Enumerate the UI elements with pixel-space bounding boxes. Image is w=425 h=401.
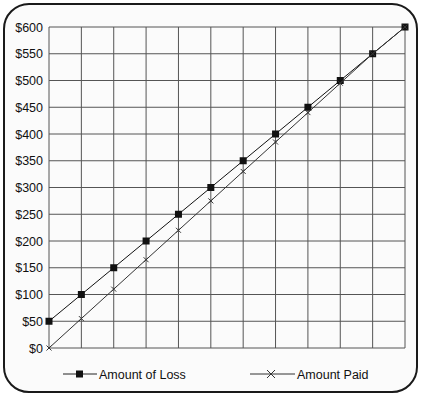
legend-label-amount-of-loss: Amount of Loss [99,368,186,382]
line-chart: $0$50$100$150$200$250$300$350$400$450$50… [0,0,425,401]
series-amount-of-loss [46,24,409,325]
data-point-square [272,131,279,138]
legend-item-amount-paid: Amount Paid [250,368,369,382]
legend-marker-square [76,371,83,378]
y-tick-label: $150 [15,261,43,275]
y-axis-ticks: $0$50$100$150$200$250$300$350$400$450$50… [15,21,43,356]
data-point-square [46,318,53,325]
data-point-square [207,184,214,191]
y-tick-label: $250 [15,208,43,222]
data-point-square [175,211,182,218]
y-tick-label: $400 [15,128,43,142]
y-tick-label: $500 [15,74,43,88]
y-tick-label: $450 [15,101,43,115]
legend-item-amount-of-loss: Amount of Loss [63,368,186,382]
data-point-square [143,238,150,245]
y-tick-label: $600 [15,21,43,35]
y-tick-label: $350 [15,154,43,168]
y-tick-label: $100 [15,288,43,302]
y-tick-label: $50 [22,315,43,329]
y-tick-label: $300 [15,181,43,195]
data-point-square [240,157,247,164]
y-tick-label: $0 [29,342,43,356]
data-point-square [110,264,117,271]
legend-label-amount-paid: Amount Paid [297,368,369,382]
y-tick-label: $200 [15,235,43,249]
series-line [49,27,405,321]
data-point-square [78,291,85,298]
legend: Amount of Loss Amount Paid [63,368,369,382]
y-tick-label: $550 [15,47,43,61]
